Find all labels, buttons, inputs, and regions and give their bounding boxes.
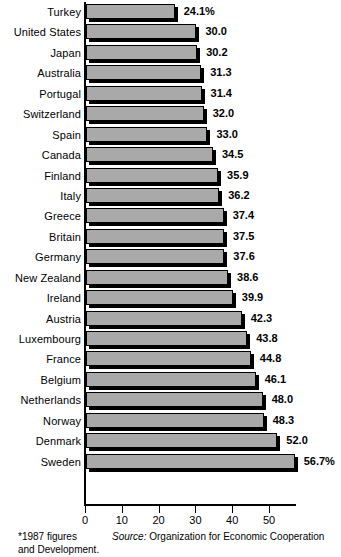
bar-fill xyxy=(86,270,228,285)
bar-shadow-bottom xyxy=(89,121,207,124)
bar xyxy=(86,392,266,410)
bar-row: Austria42.3 xyxy=(0,310,341,330)
category-label: Britain xyxy=(0,230,81,244)
bar-value-label: 39.9 xyxy=(242,290,263,304)
bar-row: New Zealand38.6 xyxy=(0,269,341,289)
bar-shadow-bottom xyxy=(89,469,298,472)
bar-fill xyxy=(86,331,247,346)
bar-shadow-right xyxy=(224,232,227,247)
bar-shadow-right xyxy=(247,334,250,349)
bar-row: Australia31.3 xyxy=(0,64,341,84)
category-label: Australia xyxy=(0,66,81,80)
bar-value-label: 38.6 xyxy=(237,270,258,284)
category-label: Portugal xyxy=(0,87,81,101)
bar-shadow-right xyxy=(204,109,207,124)
bar-fill xyxy=(86,433,277,448)
bar-shadow-right xyxy=(218,171,221,186)
bar xyxy=(86,290,236,308)
bar-value-label: 33.0 xyxy=(216,127,237,141)
bar-shadow-right xyxy=(197,48,200,63)
bar-chart: Turkey24.1%United States30.0Japan30.2Aus… xyxy=(0,0,341,557)
bar-fill xyxy=(86,311,242,326)
bar-value-label: 56.7% xyxy=(304,454,335,468)
bar-shadow-bottom xyxy=(89,60,200,63)
bar-value-label: 44.8 xyxy=(260,351,281,365)
bar-fill xyxy=(86,4,175,19)
bar-shadow-bottom xyxy=(89,183,221,186)
bar xyxy=(86,24,199,42)
category-label: Spain xyxy=(0,128,81,142)
bar-shadow-bottom xyxy=(89,264,227,267)
bar-shadow-bottom xyxy=(89,305,236,308)
bar xyxy=(86,86,205,104)
category-label: Luxembourg xyxy=(0,332,81,346)
bar-shadow-bottom xyxy=(89,39,199,42)
x-axis-tick-labels: 01020304050 xyxy=(0,513,341,529)
x-axis-tick xyxy=(85,506,86,513)
bar-value-label: 30.0 xyxy=(205,24,226,38)
bar-shadow-right xyxy=(277,436,280,451)
bar xyxy=(86,65,204,83)
bar xyxy=(86,372,259,390)
bar-shadow-right xyxy=(256,375,259,390)
category-label: Norway xyxy=(0,414,81,428)
category-label: Finland xyxy=(0,169,81,183)
category-label: Canada xyxy=(0,148,81,162)
bar-row: Finland35.9 xyxy=(0,167,341,187)
footnote-line-1: *1987 figures xyxy=(18,531,77,542)
bar-value-label: 30.2 xyxy=(206,45,227,59)
category-label: Netherlands xyxy=(0,393,81,407)
bar xyxy=(86,331,250,349)
bar-shadow-right xyxy=(264,416,267,431)
bar-value-label: 32.0 xyxy=(213,106,234,120)
bar xyxy=(86,45,200,63)
bar-value-label: 42.3 xyxy=(251,311,272,325)
x-axis-tick xyxy=(269,506,270,513)
bar xyxy=(86,249,227,267)
bar-fill xyxy=(86,24,196,39)
bar xyxy=(86,147,216,165)
x-axis-tick-label: 50 xyxy=(254,513,284,527)
bar xyxy=(86,270,231,288)
category-label: Belgium xyxy=(0,373,81,387)
bar-row: Netherlands48.0 xyxy=(0,391,341,411)
bar-fill xyxy=(86,413,264,428)
bar-shadow-right xyxy=(219,191,222,206)
bar-shadow-right xyxy=(224,252,227,267)
category-label: Denmark xyxy=(0,434,81,448)
bar-value-label: 48.0 xyxy=(272,392,293,406)
bar-row: Denmark52.0 xyxy=(0,432,341,452)
bar-value-label: 36.2 xyxy=(228,188,249,202)
bar-row: United States30.0 xyxy=(0,23,341,43)
bar-value-label: 43.8 xyxy=(256,331,277,345)
bar-row: Portugal31.4 xyxy=(0,85,341,105)
bar-value-label: 34.5 xyxy=(222,147,243,161)
bar-shadow-bottom xyxy=(89,387,259,390)
bar-row: Turkey24.1% xyxy=(0,3,341,23)
bar-shadow-bottom xyxy=(89,162,216,165)
bar-shadow-bottom xyxy=(89,80,204,83)
bar-value-label: 31.3 xyxy=(210,65,231,79)
bar-row: Italy36.2 xyxy=(0,187,341,207)
bar xyxy=(86,106,207,124)
bar-shadow-bottom xyxy=(89,101,205,104)
bar-row: Greece37.4 xyxy=(0,207,341,227)
bar-row: Belgium46.1 xyxy=(0,371,341,391)
source-text: Organization for Economic Cooperation xyxy=(146,531,324,542)
bar-fill xyxy=(86,86,202,101)
bar-value-label: 24.1% xyxy=(184,4,215,18)
bar-fill xyxy=(86,188,219,203)
source-keyword: Source: xyxy=(112,531,146,542)
bar-shadow-right xyxy=(201,68,204,83)
bar xyxy=(86,208,227,226)
bar xyxy=(86,454,298,472)
bar xyxy=(86,351,254,369)
source-note: Source: Organization for Economic Cooper… xyxy=(112,531,341,544)
bar-fill xyxy=(86,372,256,387)
bar-fill xyxy=(86,208,224,223)
chart-footer: *1987 figures and Development. Source: O… xyxy=(0,531,341,557)
bar-shadow-right xyxy=(196,27,199,42)
bar-value-label: 37.4 xyxy=(233,208,254,222)
bar-fill xyxy=(86,229,224,244)
bar-shadow-bottom xyxy=(89,223,227,226)
